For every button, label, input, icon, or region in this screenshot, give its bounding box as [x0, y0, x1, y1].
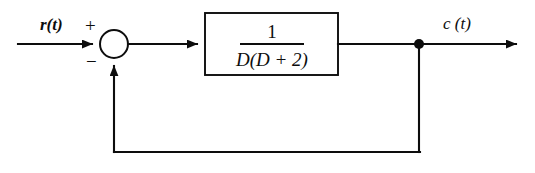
summing-junction-minus-sign: −	[86, 51, 97, 72]
diagram-canvas: 1 D(D + 2) r(t) + − c (t)	[0, 0, 535, 173]
output-signal-label: c (t)	[443, 14, 471, 33]
summing-junction-plus-sign: +	[85, 15, 96, 36]
block-diagram-figure: 1 D(D + 2) r(t) + − c (t)	[0, 0, 535, 173]
input-signal-label: r(t)	[40, 15, 63, 34]
transfer-function-denominator: D(D + 2)	[235, 49, 308, 71]
transfer-function-numerator: 1	[267, 21, 277, 42]
summing-junction	[100, 30, 128, 58]
